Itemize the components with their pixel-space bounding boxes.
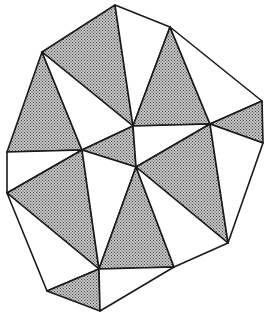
triangulation-diagram: [0, 0, 269, 315]
triangle-group: [7, 5, 263, 311]
white-triangle-ofg: [99, 267, 174, 311]
